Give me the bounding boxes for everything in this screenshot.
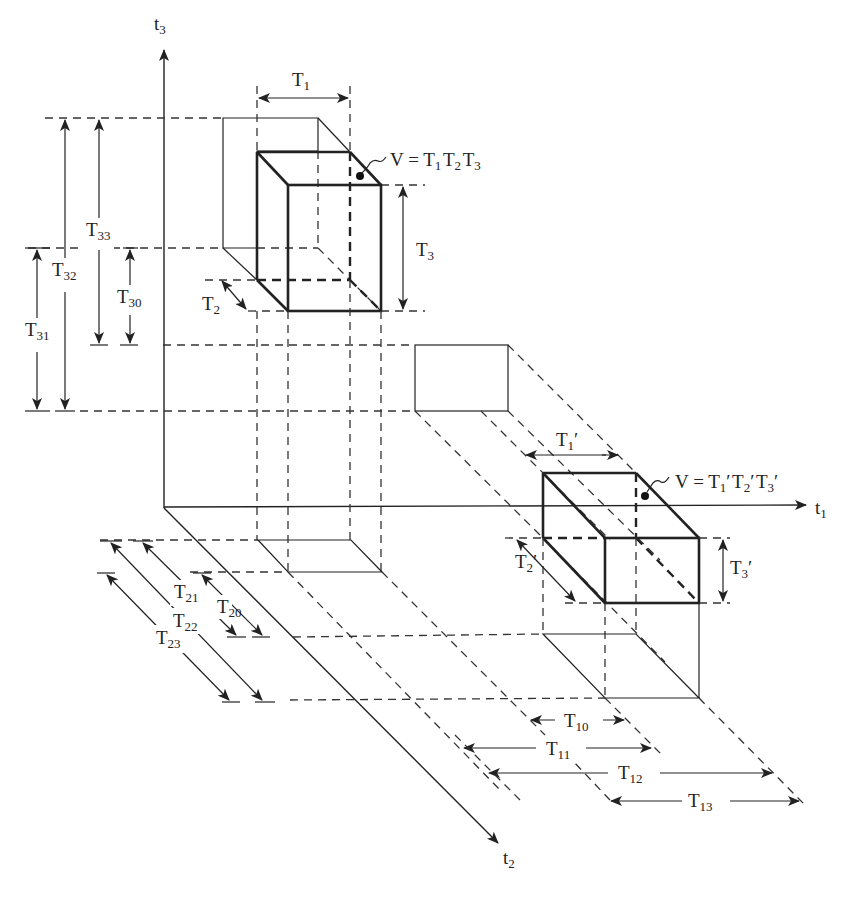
box1-volume-formula: V = T1 T2 T3: [390, 150, 481, 172]
T13-sub: 13: [700, 799, 713, 814]
T1-sub: 1: [304, 78, 311, 93]
box1-floor-hatch: [258, 540, 382, 572]
t1-dimension-arrows: [455, 720, 799, 801]
T3-base: T: [416, 239, 428, 260]
T30-label: T30: [117, 287, 142, 309]
T11-label: T11: [546, 739, 570, 761]
t3-reference-lines: [28, 118, 425, 411]
T12-sub: 12: [630, 771, 643, 786]
T2-base: T: [202, 293, 214, 314]
V2-T3-prime: ′: [774, 471, 778, 492]
V1-T3-sub: 3: [474, 158, 481, 173]
T22-sub: 22: [185, 619, 198, 634]
V2-T2: T: [732, 471, 744, 492]
t2-sub: 2: [508, 856, 515, 871]
T21-sub: 21: [186, 590, 199, 605]
T1p-prime: ′: [574, 429, 578, 450]
V1-T1-sub: 1: [435, 158, 442, 173]
diagram-svg: [0, 0, 854, 899]
T21-base: T: [174, 581, 186, 602]
T2-label: T2: [202, 294, 220, 316]
V2-T1-prime: ′: [726, 471, 730, 492]
T20-base: T: [217, 596, 229, 617]
T2p-base: T: [515, 551, 527, 572]
T23-base: T: [156, 627, 168, 648]
T10-base: T: [564, 710, 576, 731]
T3p-label: T3′: [730, 558, 752, 580]
box1-t2-projection: [100, 540, 545, 790]
T31-label: T31: [25, 320, 50, 342]
box2-floor-hatch: [543, 634, 699, 698]
t1-axis-label: t1: [815, 498, 827, 520]
V2-T2-prime: ′: [750, 471, 754, 492]
T33-label: T33: [86, 220, 111, 242]
box1-t3-projection: [223, 118, 381, 311]
T10-sub: 10: [576, 719, 589, 734]
T20-label: T20: [217, 597, 242, 619]
box1-drop-lines: [257, 86, 381, 572]
T10-label: T10: [564, 711, 589, 733]
T3p-prime: ′: [748, 557, 752, 578]
T31-sub: 31: [37, 328, 50, 343]
T13-base: T: [688, 790, 700, 811]
V1-T2-sub: 2: [455, 158, 462, 173]
box2-volume-formula: V = T1′ T2′ T3′: [675, 472, 778, 494]
T12-base: T: [618, 762, 630, 783]
T31-base: T: [25, 319, 37, 340]
T11-sub: 11: [558, 747, 571, 762]
T1p-base: T: [556, 429, 568, 450]
axes: [164, 50, 806, 843]
T1-base: T: [292, 69, 304, 90]
box2-t3-projection: [415, 345, 665, 662]
box2-t2-projection: [290, 538, 805, 805]
t2-axis: [164, 508, 498, 843]
box1-leader: [362, 157, 386, 173]
t3-axis-label: t3: [154, 14, 166, 36]
diagram-canvas: t3 t1 t2 T1 T3 T2 V = T1 T2 T3 T1′ T3′ T…: [0, 0, 854, 899]
T20-sub: 20: [229, 605, 242, 620]
V1-prefix: V =: [390, 149, 423, 170]
T2p-label: T2′: [515, 552, 537, 574]
T2p-prime: ′: [533, 551, 537, 572]
T32-base: T: [52, 259, 64, 280]
V2-prefix: V =: [675, 471, 708, 492]
T3p-base: T: [730, 557, 742, 578]
T21-label: T21: [174, 582, 199, 604]
T30-base: T: [117, 286, 129, 307]
T12-label: T12: [618, 763, 643, 785]
V1-T2: T: [443, 149, 455, 170]
t1-axis: [164, 505, 806, 507]
T2-arrow: [222, 281, 246, 309]
T1-label: T1: [292, 70, 310, 92]
t1-sub: 1: [820, 506, 827, 521]
box1-volume-point: [356, 172, 364, 180]
T13-label: T13: [688, 791, 713, 813]
box2-side-hatch: [415, 345, 508, 411]
V1-T3: T: [463, 149, 475, 170]
box1-dimension-arrows: [222, 98, 403, 309]
T3-sub: 3: [428, 248, 435, 263]
V2-T1: T: [708, 471, 720, 492]
T32-label: T32: [52, 260, 77, 282]
box1: [257, 152, 386, 311]
t2-axis-label: t2: [503, 848, 515, 870]
T3-label: T3: [416, 240, 434, 262]
box2-leader: [647, 477, 669, 492]
T23-sub: 23: [168, 636, 181, 651]
T2-sub: 2: [214, 302, 221, 317]
T33-base: T: [86, 219, 98, 240]
box2-volume-point: [641, 492, 649, 500]
T11-base: T: [546, 738, 558, 759]
t3-dimension-arrows: [25, 120, 138, 411]
V1-T1: T: [423, 149, 435, 170]
V2-T3: T: [756, 471, 768, 492]
T23-label: T23: [156, 628, 181, 650]
T33-sub: 33: [98, 228, 111, 243]
T32-sub: 32: [64, 268, 77, 283]
T1p-label: T1′: [556, 430, 578, 452]
T30-sub: 30: [129, 295, 142, 310]
t3-sub: 3: [159, 22, 166, 37]
box1-side-hatch: [223, 118, 318, 248]
